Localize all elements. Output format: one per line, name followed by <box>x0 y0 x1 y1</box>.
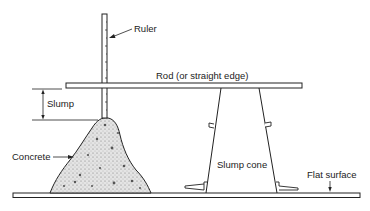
ruler <box>102 14 107 118</box>
rod-straight-edge <box>66 83 302 88</box>
flat-surface-label: Flat surface <box>307 169 357 180</box>
rod-label: Rod (or straight edge) <box>156 70 248 81</box>
slump-test-diagram: Ruler Rod (or straight edge) Slump Concr… <box>0 0 370 211</box>
ruler-label: Ruler <box>134 23 157 34</box>
ruler-leader-arrow <box>109 29 132 38</box>
concrete-pile <box>50 118 151 193</box>
slump-cone <box>185 88 298 193</box>
slump-cone-label: Slump cone <box>217 159 267 170</box>
slump-label: Slump <box>47 98 74 109</box>
flat-surface-leader-arrow <box>328 181 331 192</box>
flat-surface <box>13 193 360 198</box>
concrete-label: Concrete <box>12 151 51 162</box>
